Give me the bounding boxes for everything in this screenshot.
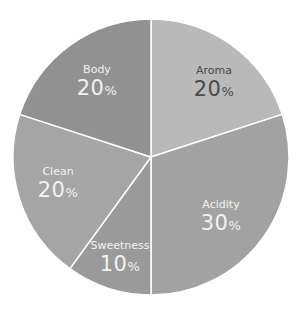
slice-label-aroma: Aroma 20% xyxy=(194,64,235,104)
slice-label-clean: Clean 20% xyxy=(38,165,79,205)
slice-name: Sweetness xyxy=(90,239,149,252)
slice-label-body: Body 20% xyxy=(77,63,118,103)
slice-value: 10% xyxy=(90,252,149,279)
slice-name: Body xyxy=(77,63,118,76)
slice-label-sweetness: Sweetness 10% xyxy=(90,239,149,279)
slice-name: Acidity xyxy=(201,198,242,211)
slice-label-acidity: Acidity 30% xyxy=(201,198,242,238)
slice-value: 20% xyxy=(38,178,79,205)
slice-name: Aroma xyxy=(194,64,235,77)
slice-value: 30% xyxy=(201,211,242,238)
slice-name: Clean xyxy=(38,165,79,178)
pie-chart xyxy=(0,0,300,314)
slice-value: 20% xyxy=(194,77,235,104)
slice-value: 20% xyxy=(77,76,118,103)
